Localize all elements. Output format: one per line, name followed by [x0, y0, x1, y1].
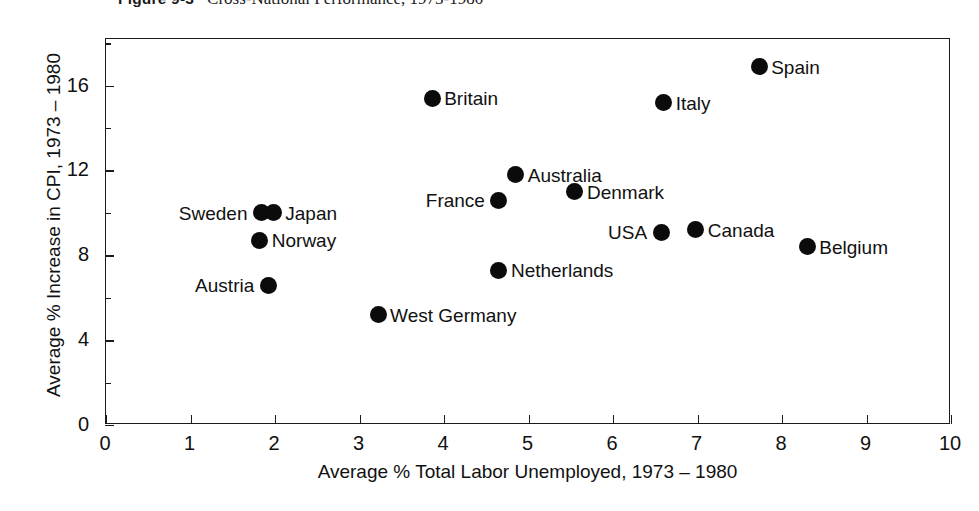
- data-point-label: Britain: [444, 89, 498, 108]
- x-axis-tick-label: 1: [160, 432, 220, 455]
- data-point: [507, 166, 524, 183]
- data-point: [490, 262, 507, 279]
- x-axis-tick: [360, 415, 361, 424]
- x-axis-tick-label: 4: [413, 432, 473, 455]
- x-axis-tick: [867, 415, 868, 424]
- x-axis-tick-label: 10: [920, 432, 979, 455]
- data-point-label: Spain: [771, 58, 820, 77]
- data-point: [655, 94, 672, 111]
- x-axis-tick: [782, 415, 783, 424]
- data-point-label: Netherlands: [511, 261, 613, 280]
- data-point-label: Italy: [676, 94, 711, 113]
- x-axis-title: Average % Total Labor Unemployed, 1973 –…: [105, 461, 950, 483]
- data-point-label: Norway: [272, 231, 336, 250]
- x-axis-tick-label: 2: [244, 432, 304, 455]
- data-point-label: Belgium: [819, 238, 888, 257]
- data-point: [566, 183, 583, 200]
- data-point: [260, 277, 277, 294]
- data-point: [424, 90, 441, 107]
- y-axis-minor-tick: [105, 383, 111, 384]
- data-point-label: Austria: [195, 276, 254, 295]
- x-axis-tick: [106, 415, 107, 424]
- y-axis-minor-tick: [105, 213, 111, 214]
- x-axis-tick-label: 6: [582, 432, 642, 455]
- scatter-plot-area: SpainBritainItalyAustraliaDenmarkFranceS…: [105, 38, 950, 424]
- data-point: [490, 192, 507, 209]
- x-axis-tick-label: 9: [836, 432, 896, 455]
- x-axis-tick-label: 0: [75, 432, 135, 455]
- x-axis-tick: [191, 415, 192, 424]
- data-point: [799, 238, 816, 255]
- y-axis-minor-tick: [105, 43, 111, 44]
- data-point: [687, 221, 704, 238]
- y-axis-minor-tick: [105, 128, 111, 129]
- x-axis-tick-label: 5: [498, 432, 558, 455]
- data-point: [265, 204, 282, 221]
- x-axis-tick: [613, 415, 614, 424]
- data-point: [653, 224, 670, 241]
- x-axis-tick-label: 3: [329, 432, 389, 455]
- data-point-label: West Germany: [390, 306, 516, 325]
- y-axis-tick: [105, 86, 114, 87]
- figure-root: Figure 9-3Cross-National Performance, 19…: [0, 0, 979, 511]
- data-point-label: Japan: [285, 204, 337, 223]
- data-point-label: USA: [608, 223, 647, 242]
- x-axis-tick: [951, 415, 952, 424]
- x-axis-tick: [529, 415, 530, 424]
- y-axis-title: Average % Increase in CPI, 1973 – 1980: [43, 0, 65, 475]
- y-axis-tick: [105, 340, 114, 341]
- y-axis-tick: [105, 425, 114, 426]
- data-point: [370, 306, 387, 323]
- data-point: [751, 58, 768, 75]
- y-axis-tick: [105, 170, 114, 171]
- x-axis-tick: [698, 415, 699, 424]
- data-point: [251, 232, 268, 249]
- figure-caption-text: Cross-National Performance, 1973-1980: [207, 0, 483, 7]
- x-axis-tick: [444, 415, 445, 424]
- x-axis-tick-label: 7: [667, 432, 727, 455]
- figure-caption: Figure 9-3Cross-National Performance, 19…: [118, 0, 878, 7]
- y-axis-tick: [105, 255, 114, 256]
- y-axis-minor-tick: [105, 298, 111, 299]
- data-point-label: Denmark: [587, 183, 664, 202]
- x-axis-tick: [275, 415, 276, 424]
- figure-caption-number: Figure 9-3: [118, 0, 194, 7]
- data-point-label: Sweden: [179, 204, 248, 223]
- data-point-label: France: [426, 191, 485, 210]
- x-axis-tick-label: 8: [751, 432, 811, 455]
- data-point-label: Canada: [708, 221, 775, 240]
